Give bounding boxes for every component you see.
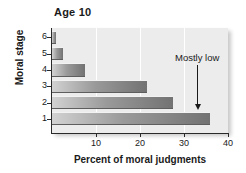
y-tick-2	[47, 103, 52, 104]
bar-stage-6	[52, 31, 56, 44]
x-tick-label-40: 40	[216, 138, 240, 148]
x-tick-30	[184, 133, 185, 137]
y-tick-label-4: 4	[25, 65, 47, 74]
y-tick-6	[47, 37, 52, 38]
y-tick-4	[47, 70, 52, 71]
y-tick-label-1: 1	[25, 114, 47, 123]
x-axis-title: Percent of moral judgments	[45, 154, 235, 165]
y-tick-1	[47, 119, 52, 120]
chart-title: Age 10	[54, 6, 91, 18]
plot-inner	[52, 28, 228, 133]
y-axis-line	[51, 28, 52, 133]
y-tick-3	[47, 86, 52, 87]
annotation-label: Mostly low	[175, 52, 219, 63]
bar-stage-3	[52, 80, 147, 93]
plot-area	[52, 28, 228, 133]
y-axis-tick-labels: 654321	[22, 28, 47, 133]
bar-stage-5	[52, 47, 63, 60]
annotation-arrowhead	[195, 104, 201, 110]
y-tick-label-2: 2	[25, 98, 47, 107]
y-tick-label-5: 5	[25, 49, 47, 58]
bar-stage-1	[52, 112, 210, 125]
bar-stage-4	[52, 63, 85, 76]
y-tick-label-6: 6	[25, 32, 47, 41]
annotation-arrow-line	[197, 65, 198, 105]
y-tick-label-3: 3	[25, 81, 47, 90]
x-tick-label-30: 30	[172, 138, 196, 148]
x-tick-label-20: 20	[128, 138, 152, 148]
chart-figure: Age 10 Moral stage 654321 Percent of mor…	[0, 0, 246, 173]
x-tick-40	[228, 133, 229, 137]
y-tick-5	[47, 54, 52, 55]
x-tick-10	[96, 133, 97, 137]
bar-stage-2	[52, 96, 173, 109]
x-tick-20	[140, 133, 141, 137]
x-tick-label-10: 10	[84, 138, 108, 148]
